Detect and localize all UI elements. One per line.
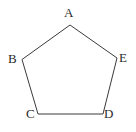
pentagon-outline	[22, 25, 117, 114]
vertex-label-b: B	[8, 52, 17, 65]
pentagon-figure: A B C D E	[0, 0, 136, 132]
vertex-label-a: A	[64, 6, 73, 19]
vertex-label-d: D	[104, 107, 113, 120]
vertex-label-c: C	[26, 107, 35, 120]
vertex-label-e: E	[119, 51, 127, 64]
